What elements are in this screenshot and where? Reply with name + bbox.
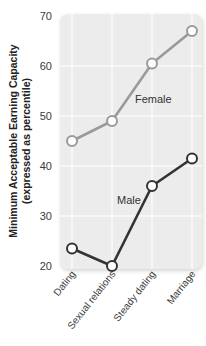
series-label-female: Female [135, 93, 172, 105]
line-chart: 203040506070 DatingSexual relationsStead… [0, 0, 206, 346]
data-point-marker [187, 154, 197, 164]
series-label-male: Male [117, 194, 141, 206]
y-axis-title-line2: (expressed as percentile) [20, 78, 32, 204]
y-tick-label: 50 [40, 110, 52, 122]
data-point-marker [67, 244, 77, 254]
y-axis-title-line1: Minimum Acceptable Earning Capacity [7, 44, 19, 237]
data-point-marker [187, 26, 197, 36]
y-tick-label: 70 [40, 10, 52, 22]
x-tick-label: Dating [51, 268, 77, 298]
y-axis-title: Minimum Acceptable Earning Capacity (exp… [7, 44, 32, 237]
y-axis-ticks: 203040506070 [40, 10, 52, 272]
y-tick-label: 30 [40, 210, 52, 222]
x-axis-ticks: DatingSexual relationsSteady datingMarri… [51, 268, 198, 331]
plot-area [60, 14, 203, 271]
data-point-marker [147, 181, 157, 191]
data-point-marker [67, 136, 77, 146]
y-tick-label: 20 [40, 260, 52, 272]
x-tick-label: Steady dating [111, 268, 157, 323]
y-tick-label: 40 [40, 160, 52, 172]
data-point-marker [147, 59, 157, 69]
data-point-marker [107, 261, 117, 271]
y-tick-label: 60 [40, 60, 52, 72]
x-tick-label: Marriage [165, 268, 198, 306]
data-point-marker [107, 116, 117, 126]
